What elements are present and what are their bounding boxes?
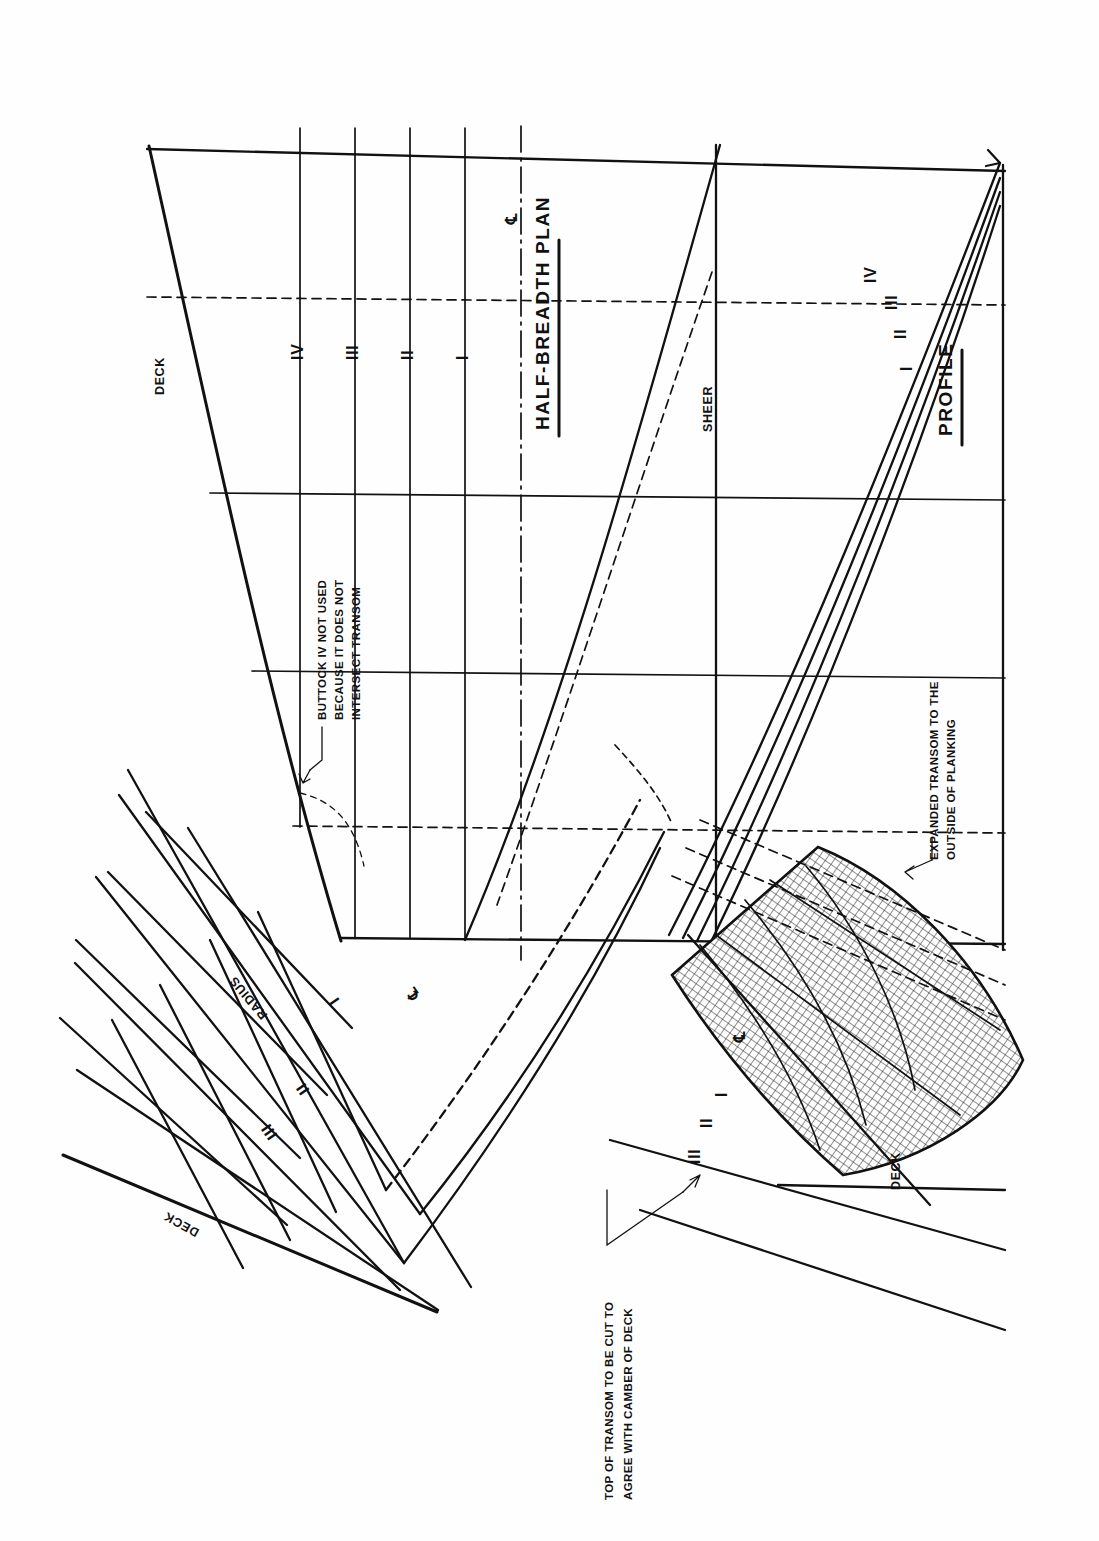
profile-title: PROFILE	[935, 342, 956, 436]
hb-buttock-label-ii: II	[399, 350, 416, 360]
profile-sheer-label: SHEER	[701, 386, 715, 432]
transom-body-label-ii: II	[698, 1118, 715, 1128]
transom-top-note-line-1: TOP OF TRANSOM TO BE CUT TO	[603, 1302, 615, 1500]
expanded-transom-note-line-2: OUTSIDE OF PLANKING	[945, 719, 957, 860]
profile-buttock-label-iv: IV	[862, 266, 879, 283]
buttock-note-line-3: INTERSECT TRANSOM	[350, 587, 362, 720]
hb-deck-label: DECK	[153, 357, 167, 395]
hb-centerline-symbol: ℄	[503, 213, 520, 225]
hb-buttock-label-iv: IV	[289, 343, 306, 360]
profile-buttock-label-iii: III	[883, 295, 900, 310]
drawing-sheet: ℄ IV III II I DECK HALF-BREADTH PLAN BUT…	[0, 0, 1099, 1541]
buttock-note-line-2: BECAUSE IT DOES NOT	[333, 579, 345, 720]
transom-top-note-line-2: AGREE WITH CAMBER OF DECK	[622, 1308, 634, 1500]
expanded-transom-note-line-1: EXPANDED TRANSOM TO THE	[928, 681, 940, 860]
hb-buttock-label-i: I	[454, 355, 471, 360]
transom-body-label-centerline: ℄	[731, 1031, 748, 1043]
profile-buttock-label-ii: II	[892, 329, 909, 339]
hb-buttock-label-iii: III	[344, 345, 361, 360]
half-breadth-title: HALF-BREADTH PLAN	[532, 196, 553, 430]
transom-body-label-i: I	[713, 1092, 730, 1097]
profile-buttock-label-i: I	[898, 366, 915, 371]
transom-body-label-iii: III	[686, 1149, 703, 1164]
lines-plan-drawing: ℄ IV III II I DECK HALF-BREADTH PLAN BUT…	[0, 0, 1099, 1541]
buttock-note-line-1: BUTTOCK IV NOT USED	[316, 580, 328, 720]
transom-deck-label: DECK	[889, 1152, 903, 1190]
